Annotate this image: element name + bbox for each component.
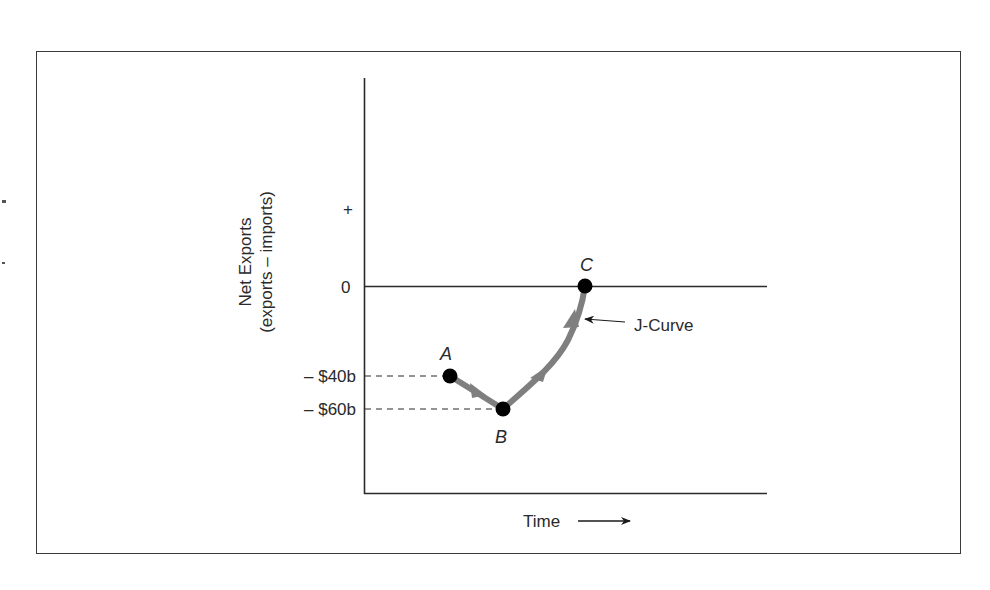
point-c: [578, 279, 593, 294]
point-b-label: B: [495, 427, 507, 447]
point-c-label: C: [580, 255, 594, 275]
point-b: [496, 402, 511, 417]
j-curve-label: J-Curve: [634, 316, 694, 335]
y-axis-title-line2: (exports – imports): [257, 191, 276, 333]
y-axis-title-line1: Net Exports: [236, 218, 255, 307]
y-tick-neg60: – $60b: [304, 400, 356, 419]
y-tick-zero: 0: [341, 278, 350, 297]
y-tick-neg40: – $40b: [304, 367, 356, 386]
x-axis-title: Time: [523, 512, 560, 531]
j-curve-diagram: A B C J-Curve + 0 – $40b – $60b Net Expo…: [0, 0, 990, 590]
y-tick-plus: +: [343, 200, 353, 219]
j-curve-pointer-icon: [585, 319, 625, 322]
point-a: [443, 369, 458, 384]
point-a-label: A: [439, 344, 452, 364]
curve-segment-bc: [503, 286, 585, 409]
